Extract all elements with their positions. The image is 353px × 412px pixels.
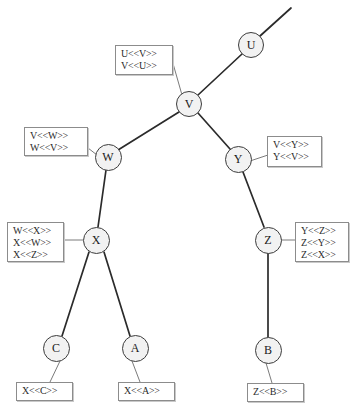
annotation-line: Z<<Y>> bbox=[301, 237, 344, 249]
node-label: X bbox=[92, 233, 101, 248]
node-label: V bbox=[185, 97, 194, 112]
annotation-label-yz: Y<<Z>>Z<<Y>>Z<<X>> bbox=[295, 222, 349, 262]
annotation-line: W<<X>> bbox=[13, 225, 59, 237]
annotation-line: Y<<V>> bbox=[273, 151, 317, 163]
annotation-line: Z<<X>> bbox=[301, 249, 344, 261]
tree-edge-u-open-top-right bbox=[260, 8, 291, 36]
leader-line-label-xc bbox=[50, 361, 60, 382]
node-v[interactable]: V bbox=[176, 91, 202, 117]
node-z[interactable]: Z bbox=[255, 227, 282, 254]
tree-edge-v-w bbox=[118, 112, 179, 150]
leader-line-label-vy bbox=[250, 155, 268, 161]
annotation-line: Z<<B>> bbox=[253, 386, 299, 398]
annotation-label-zb: Z<<B>> bbox=[247, 383, 304, 402]
annotation-line: Y<<Z>> bbox=[301, 225, 344, 237]
leader-line-label-uv bbox=[172, 60, 182, 95]
tree-edge-v-y bbox=[198, 113, 230, 149]
annotation-line: V<<W>> bbox=[30, 130, 83, 142]
node-label: B bbox=[264, 343, 272, 358]
annotation-label-vw: V<<W>>W<<V>> bbox=[24, 127, 88, 156]
tree-edge-x-c bbox=[62, 252, 89, 336]
label-leader-lines bbox=[50, 60, 296, 383]
tree-edge-u-v bbox=[198, 54, 242, 95]
node-label: A bbox=[131, 341, 140, 356]
annotation-label-wx: W<<X>>X<<W>>X<<Z>> bbox=[7, 222, 64, 262]
diagram-canvas: UVWYXZCAB U<<V>>V<<U>>V<<W>>W<<V>>V<<Y>>… bbox=[0, 0, 353, 412]
node-label: Z bbox=[264, 233, 271, 248]
leader-line-label-xa bbox=[132, 361, 140, 382]
annotation-line: U<<V>> bbox=[121, 48, 168, 60]
node-label: U bbox=[247, 38, 256, 53]
leader-line-label-zb bbox=[266, 363, 272, 383]
annotation-line: V<<Y>> bbox=[273, 139, 317, 151]
annotation-line: X<<A>> bbox=[124, 385, 170, 397]
node-label: W bbox=[102, 150, 113, 165]
tree-edge-x-a bbox=[104, 252, 130, 336]
node-y[interactable]: Y bbox=[225, 146, 252, 173]
annotation-label-xa: X<<A>> bbox=[118, 382, 175, 401]
node-a[interactable]: A bbox=[122, 335, 149, 362]
tree-edge-y-z bbox=[243, 172, 264, 227]
annotation-line: V<<U>> bbox=[121, 60, 168, 72]
tree-edges bbox=[62, 8, 291, 337]
node-u[interactable]: U bbox=[238, 32, 264, 58]
node-b[interactable]: B bbox=[255, 337, 282, 364]
node-label: C bbox=[52, 341, 60, 356]
annotation-line: X<<W>> bbox=[13, 237, 59, 249]
node-label: Y bbox=[234, 152, 243, 167]
annotation-label-uv: U<<V>>V<<U>> bbox=[115, 45, 173, 75]
tree-edge-w-x bbox=[98, 170, 106, 227]
node-w[interactable]: W bbox=[95, 144, 122, 171]
annotation-line: X<<C>> bbox=[22, 385, 68, 397]
node-x[interactable]: X bbox=[83, 227, 110, 254]
annotation-label-xc: X<<C>> bbox=[16, 382, 73, 401]
node-c[interactable]: C bbox=[43, 335, 70, 362]
annotation-line: W<<V>> bbox=[30, 142, 83, 154]
annotation-label-vy: V<<Y>>Y<<V>> bbox=[267, 136, 322, 167]
annotation-line: X<<Z>> bbox=[13, 249, 59, 261]
